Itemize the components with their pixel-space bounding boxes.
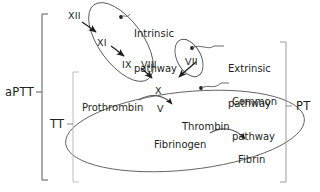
test-label-pt: PT: [296, 100, 311, 112]
protein-label-thrombin: Thrombin: [182, 122, 230, 133]
protein-label-fibrinogen: Fibrinogen: [154, 140, 206, 151]
pathway-label-common: Common pathway: [232, 73, 277, 165]
pt-bracket: [280, 42, 292, 182]
coagulation-cascade-diagram: XII XI IX VIII VII X V Prothrombin Throm…: [0, 0, 320, 192]
factor-label-v: V: [157, 104, 164, 114]
test-label-tt: TT: [50, 118, 64, 130]
test-label-aptt: aPTT: [5, 86, 34, 98]
aptt-bracket: [36, 14, 48, 180]
tt-bracket: [67, 72, 79, 182]
pathway-label-common-line2: pathway: [232, 131, 277, 143]
factor-label-xii: XII: [68, 11, 81, 21]
factor-label-ix: IX: [122, 60, 132, 70]
extrinsic-leader-line: [190, 46, 224, 50]
pathway-label-intrinsic-line2: pathway: [134, 63, 177, 75]
pathway-label-common-line1: Common: [232, 96, 277, 108]
pathway-label-intrinsic: Intrinsic pathway: [134, 5, 177, 97]
protein-label-prothrombin: Prothrombin: [82, 103, 143, 114]
pathway-label-intrinsic-line1: Intrinsic: [134, 28, 177, 40]
common-leader-line: [199, 83, 229, 90]
factor-label-xi: XI: [97, 38, 107, 48]
factor-label-vii: VII: [185, 57, 198, 67]
